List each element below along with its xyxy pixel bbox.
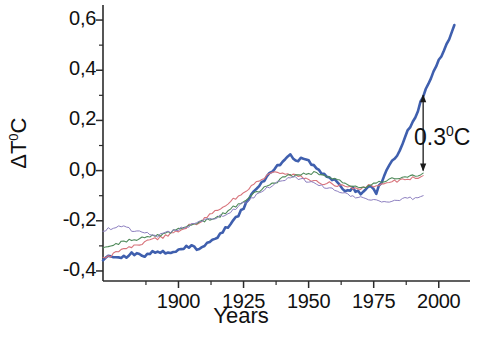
y-axis-title: ΔT0C (6, 98, 32, 188)
annotation-arrowhead-bottom (420, 164, 426, 172)
y-axis-title-degree: 0 (6, 133, 21, 140)
series-line-blue (103, 25, 454, 260)
series-line-green (103, 172, 423, 248)
temperature-anomaly-chart: 0,60,40,20,0-0,2-0,419001925195019752000… (0, 0, 482, 338)
y-axis-title-base: ΔT (6, 141, 31, 169)
y-tick-label: 0,6 (18, 7, 96, 30)
y-tick-label: 0,4 (18, 57, 96, 80)
annotation-value: 0.3 (414, 124, 446, 150)
annotation-unit: C (454, 124, 471, 150)
annotation-label-0.3C: 0.30C (414, 123, 470, 151)
series-line-red (103, 172, 423, 258)
y-tick-label: -0,4 (18, 258, 96, 281)
x-axis-title: Years (0, 303, 482, 329)
data-series-group (103, 25, 454, 260)
y-tick-label: -0,2 (18, 208, 96, 231)
annotation-degree-sign: 0 (446, 123, 454, 139)
y-axis-title-tail: C (6, 118, 31, 134)
